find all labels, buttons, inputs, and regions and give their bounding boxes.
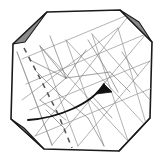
origami-diagram-figure <box>0 0 163 162</box>
origami-canvas <box>0 0 163 162</box>
